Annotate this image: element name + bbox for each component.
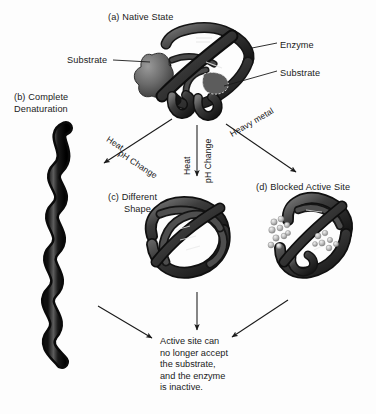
callout-substrate-left-label: Substrate: [67, 55, 107, 67]
callout-substrate-right-label: Substrate: [280, 68, 320, 80]
different-shape-structure: [151, 202, 225, 273]
callout-enzyme-label: Enzyme: [280, 40, 314, 52]
panel-a-caption: (a) Native State: [108, 12, 173, 24]
blocked-active-site-structure: [268, 198, 347, 273]
arrow-b-to-conclusion: [98, 306, 152, 338]
active-site-pocket: [203, 72, 229, 94]
arrow-middle-label-heat: Heat: [182, 156, 192, 175]
conclusion-arrows: [98, 292, 288, 338]
figure-canvas: (a) Native State (b) Complete Denaturati…: [0, 0, 376, 414]
panel-d-caption: (d) Blocked Active Site: [256, 182, 350, 194]
arrow-middle-label-ph: pH Change: [203, 139, 213, 183]
panel-c-caption: (c) Different Shape: [108, 192, 157, 215]
denatured-chain: [48, 128, 66, 362]
native-enzyme-structure: [134, 28, 249, 116]
conclusion-text: Active site can no longer accept the sub…: [160, 336, 228, 394]
leader-enzyme: [252, 43, 277, 48]
arrow-d-to-conclusion: [232, 300, 288, 337]
panel-b-caption: (b) Complete Denaturation: [14, 92, 68, 115]
